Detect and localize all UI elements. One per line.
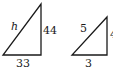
large-vertical-leg-label: 44 [43,24,57,37]
large-horizontal-leg-label: 33 [16,57,30,70]
small-triangle: 5 4 3 [72,17,113,70]
large-hypotenuse-label: h [11,20,18,33]
small-horizontal-leg-label: 3 [85,57,92,70]
large-triangle-shape [3,4,41,55]
small-vertical-leg-label: 4 [110,28,113,41]
small-triangle-shape [72,17,107,55]
similar-triangles-diagram: h 44 33 5 4 3 [0,0,113,72]
small-hypotenuse-label: 5 [80,22,87,35]
large-triangle: h 44 33 [3,4,57,70]
